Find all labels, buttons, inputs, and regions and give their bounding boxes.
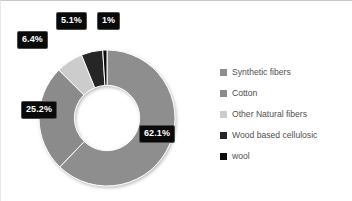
legend-item-wood-based-cellulosic[interactable]: Wood based cellulosic <box>220 125 352 146</box>
data-label-cotton: 25.2% <box>22 102 56 118</box>
legend-item-label: Cotton <box>232 89 257 98</box>
legend-swatch-icon <box>220 90 227 97</box>
donut-chart-svg <box>1 1 217 201</box>
legend-swatch-icon <box>220 132 227 139</box>
legend-item-label: Wood based cellulosic <box>232 131 317 140</box>
legend-item-cotton[interactable]: Cotton <box>220 83 352 104</box>
legend-item-label: Synthetic fibers <box>232 68 291 77</box>
legend-swatch-icon <box>220 153 227 160</box>
data-label-wood-based-cellulosic: 5.1% <box>57 13 86 29</box>
data-label-synthetic-fibers: 62.1% <box>140 126 174 142</box>
data-label-wool: 1% <box>98 13 119 29</box>
legend-item-synthetic-fibers[interactable]: Synthetic fibers <box>220 62 352 83</box>
chart-screenshot: 62.1% 25.2% 6.4% 5.1% 1% Synthetic fiber… <box>0 0 352 201</box>
legend-item-label: wool <box>232 152 250 161</box>
chart-legend: Synthetic fibersCottonOther Natural fibe… <box>220 62 352 167</box>
legend-item-other-natural-fibers[interactable]: Other Natural fibers <box>220 104 352 125</box>
donut-chart: 62.1% 25.2% 6.4% 5.1% 1% <box>1 1 217 201</box>
legend-item-wool[interactable]: wool <box>220 146 352 167</box>
legend-swatch-icon <box>220 111 227 118</box>
data-label-other-natural-fibers: 6.4% <box>18 32 47 48</box>
legend-item-label: Other Natural fibers <box>232 110 307 119</box>
donut-slice-group <box>39 50 175 186</box>
legend-swatch-icon <box>220 69 227 76</box>
